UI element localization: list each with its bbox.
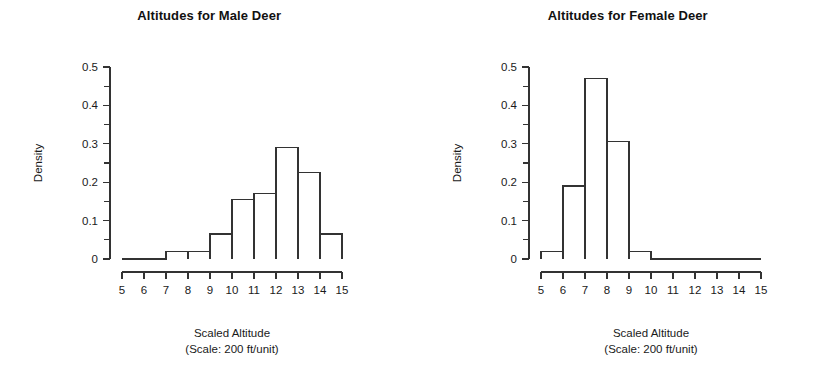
panel-male: Altitudes for Male Deer 00.10.20.30.40.5… [0, 0, 419, 378]
plot-svg-male: 00.10.20.30.40.5Density56789101112131415… [0, 0, 419, 378]
x-tick-label: 9 [625, 284, 631, 296]
y-tick-label: 0.1 [501, 215, 517, 227]
x-tick-label: 11 [667, 284, 679, 296]
y-axis-label: Density [451, 144, 463, 183]
y-tick-label: 0 [92, 253, 98, 265]
x-tick-label: 14 [314, 284, 327, 296]
x-axis-label-line2: (Scale: 200 ft/unit) [185, 343, 278, 355]
x-tick-label: 15 [754, 284, 767, 296]
x-tick-label: 5 [119, 284, 125, 296]
panel-female: Altitudes for Female Deer 00.10.20.30.40… [419, 0, 837, 378]
x-tick-label: 10 [644, 284, 657, 296]
y-tick-label: 0.3 [82, 138, 98, 150]
y-tick-label: 0.1 [82, 215, 98, 227]
x-axis-label-line1: Scaled Altitude [612, 327, 688, 339]
x-tick-label: 12 [688, 284, 701, 296]
x-tick-label: 9 [207, 284, 213, 296]
x-tick-label: 14 [732, 284, 745, 296]
y-tick-label: 0.3 [501, 138, 517, 150]
y-tick-label: 0 [510, 253, 516, 265]
x-tick-label: 6 [141, 284, 147, 296]
x-tick-label: 11 [248, 284, 260, 296]
x-tick-label: 12 [270, 284, 283, 296]
histogram-figure: Altitudes for Male Deer 00.10.20.30.40.5… [0, 0, 837, 378]
y-axis-label: Density [32, 144, 44, 183]
y-tick-label: 0.2 [82, 176, 98, 188]
x-tick-label: 5 [537, 284, 543, 296]
histogram-outline [541, 79, 761, 259]
y-tick-label: 0.4 [501, 99, 518, 111]
x-tick-label: 6 [559, 284, 565, 296]
y-tick-label: 0.5 [82, 61, 98, 73]
y-tick-label: 0.5 [501, 61, 517, 73]
x-tick-label: 13 [710, 284, 723, 296]
x-axis-label-line1: Scaled Altitude [194, 327, 270, 339]
plot-area-male: 00.10.20.30.40.5Density56789101112131415… [0, 0, 419, 378]
plot-svg-female: 00.10.20.30.40.5Density56789101112131415… [419, 0, 837, 378]
x-tick-label: 8 [603, 284, 609, 296]
y-tick-label: 0.4 [82, 99, 99, 111]
x-tick-label: 10 [226, 284, 239, 296]
x-axis-label-line2: (Scale: 200 ft/unit) [604, 343, 697, 355]
x-tick-label: 7 [581, 284, 587, 296]
x-tick-label: 15 [336, 284, 349, 296]
x-tick-label: 8 [185, 284, 191, 296]
plot-area-female: 00.10.20.30.40.5Density56789101112131415… [419, 0, 837, 378]
y-tick-label: 0.2 [501, 176, 517, 188]
x-tick-label: 7 [163, 284, 169, 296]
x-tick-label: 13 [292, 284, 305, 296]
